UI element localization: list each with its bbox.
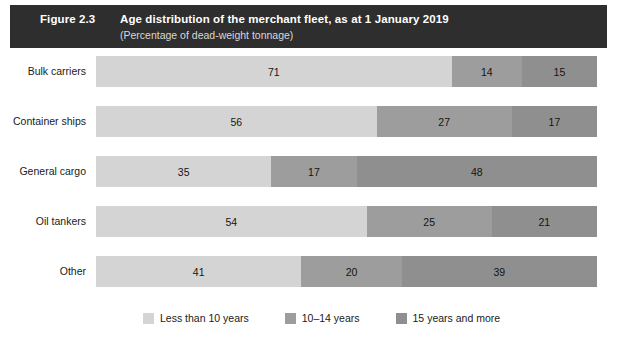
legend-item: 15 years and more xyxy=(396,312,501,324)
bar-segment: 41 xyxy=(96,256,301,287)
stacked-bar: 351748 xyxy=(96,156,597,187)
legend-item: Less than 10 years xyxy=(143,312,249,324)
bar-segment-value: 17 xyxy=(549,116,561,128)
bar-segment-value: 21 xyxy=(539,216,551,228)
bar-segment: 17 xyxy=(512,106,597,137)
bar-segment: 14 xyxy=(452,56,522,87)
bar-segment: 56 xyxy=(96,106,377,137)
bar-segment-value: 41 xyxy=(193,266,205,278)
stacked-bar: 412039 xyxy=(96,256,597,287)
bar-segment: 27 xyxy=(377,106,512,137)
stacked-bar: 562717 xyxy=(96,106,597,137)
figure-header-band: Figure 2.3 Age distribution of the merch… xyxy=(10,5,607,48)
legend-swatch-10-14-years xyxy=(285,313,296,324)
bar-segment-value: 35 xyxy=(178,166,190,178)
legend-item-label: Less than 10 years xyxy=(160,312,249,324)
bar-row: Oil tankers542521 xyxy=(0,202,617,240)
bar-segment-value: 15 xyxy=(554,66,566,78)
bar-row-label: Oil tankers xyxy=(0,202,86,240)
bar-segment: 21 xyxy=(492,206,597,237)
bar-row-label: Bulk carriers xyxy=(0,52,86,90)
bar-segment: 25 xyxy=(367,206,492,237)
bar-segment-value: 54 xyxy=(225,216,237,228)
bar-segment-value: 48 xyxy=(471,166,483,178)
bar-segment-value: 27 xyxy=(438,116,450,128)
bar-segment-value: 14 xyxy=(481,66,493,78)
legend-item-label: 10–14 years xyxy=(302,312,360,324)
figure-subtitle: (Percentage of dead-weight tonnage) xyxy=(120,29,293,41)
bar-segment: 39 xyxy=(402,256,597,287)
bar-segment: 71 xyxy=(96,56,452,87)
bar-segment: 35 xyxy=(96,156,271,187)
legend-item-label: 15 years and more xyxy=(413,312,501,324)
stacked-bar: 542521 xyxy=(96,206,597,237)
bar-segment-value: 56 xyxy=(230,116,242,128)
figure-title: Age distribution of the merchant fleet, … xyxy=(120,13,449,25)
figure-number: Figure 2.3 xyxy=(40,13,95,25)
legend-swatch-15-years-and-more xyxy=(396,313,407,324)
bar-segment: 15 xyxy=(522,56,597,87)
bar-row: Container ships562717 xyxy=(0,102,617,140)
chart-legend: Less than 10 years10–14 years15 years an… xyxy=(0,308,617,328)
bar-segment-value: 39 xyxy=(493,266,505,278)
bar-row: General cargo351748 xyxy=(0,152,617,190)
legend-item: 10–14 years xyxy=(285,312,360,324)
bar-row-label: Other xyxy=(0,252,86,290)
bar-segment: 17 xyxy=(271,156,356,187)
chart-plot-area: Bulk carriers711415Container ships562717… xyxy=(0,48,617,300)
bar-row: Other412039 xyxy=(0,252,617,290)
bar-segment: 54 xyxy=(96,206,367,237)
bar-segment: 48 xyxy=(357,156,597,187)
bar-segment-value: 17 xyxy=(308,166,320,178)
bar-row-label: Container ships xyxy=(0,102,86,140)
bar-row-label: General cargo xyxy=(0,152,86,190)
bar-segment-value: 71 xyxy=(268,66,280,78)
bar-segment-value: 25 xyxy=(423,216,435,228)
figure-card: Figure 2.3 Age distribution of the merch… xyxy=(0,0,617,337)
legend-swatch-less-than-10-years xyxy=(143,313,154,324)
bar-segment: 20 xyxy=(301,256,401,287)
bar-row: Bulk carriers711415 xyxy=(0,52,617,90)
bar-segment-value: 20 xyxy=(346,266,358,278)
stacked-bar: 711415 xyxy=(96,56,597,87)
